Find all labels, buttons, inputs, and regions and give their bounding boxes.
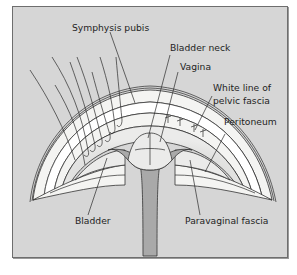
- label-peritoneum: Peritoneum: [224, 116, 277, 127]
- label-paravaginal-fascia: Paravaginal fascia: [185, 215, 268, 226]
- label-symphysis-pubis: Symphysis pubis: [72, 22, 149, 33]
- label-white-line-2: pelvic fascia: [213, 95, 270, 106]
- label-bladder: Bladder: [75, 215, 111, 226]
- label-white-line-1: White line of: [213, 82, 272, 93]
- pelvic-diagram: Symphysis pubis Bladder neck Vagina Whit…: [0, 0, 297, 275]
- vagina-structure: [108, 133, 192, 256]
- label-vagina: Vagina: [180, 61, 211, 72]
- label-bladder-neck: Bladder neck: [170, 42, 231, 53]
